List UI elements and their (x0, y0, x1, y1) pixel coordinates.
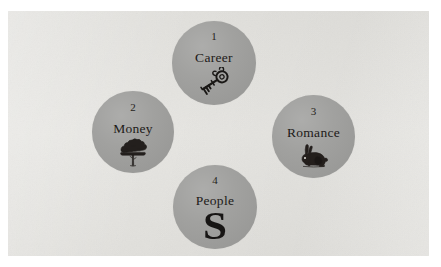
circle-romance-number: 3 (311, 106, 317, 117)
circle-money-number: 2 (130, 102, 136, 113)
circle-romance[interactable]: 3 Romance (272, 95, 355, 178)
circle-money[interactable]: 2 Money (92, 91, 174, 173)
key-icon (194, 67, 234, 101)
ornate-s-glyph-icon: S (204, 206, 226, 246)
figure-panel: 1 Career (8, 11, 429, 256)
rabbit-icon (293, 141, 335, 175)
figure-page: 1 Career (0, 0, 441, 267)
circle-romance-label: Romance (287, 126, 340, 140)
circle-people-number: 4 (212, 175, 218, 186)
circle-people[interactable]: 4 People S (173, 165, 257, 249)
circle-career-label: Career (195, 51, 233, 65)
circle-career[interactable]: 1 Career (172, 21, 256, 105)
circle-career-number: 1 (211, 31, 217, 42)
ornate-s-letter: S (203, 206, 227, 246)
circle-money-label: Money (113, 122, 153, 136)
tree-icon (113, 137, 153, 173)
